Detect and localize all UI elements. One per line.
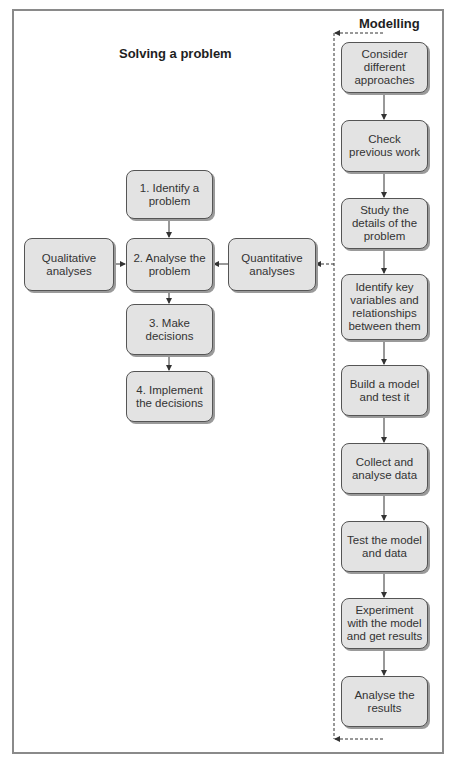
modelling-step-collect-data: Collect and analyse data [341, 443, 428, 494]
modelling-step-consider-approaches: Consider different approaches [341, 42, 428, 93]
modelling-title: Modelling [359, 16, 420, 31]
solving-a-problem-title: Solving a problem [119, 46, 232, 61]
step-analyse-problem: 2. Analyse the problem [126, 238, 213, 291]
step-implement-decisions: 4. Implement the decisions [126, 371, 213, 422]
modelling-step-study-details: Study the details of the problem [341, 198, 428, 249]
step-identify-problem: 1. Identify a problem [126, 170, 213, 219]
modelling-step-analyse-results: Analyse the results [341, 676, 428, 727]
modelling-step-experiment: Experiment with the model and get result… [341, 598, 428, 649]
modelling-step-identify-variables: Identify key variables and relationships… [341, 274, 428, 340]
modelling-step-check-previous-work: Check previous work [341, 120, 428, 172]
qualitative-analyses-box: Qualitative analyses [24, 238, 114, 291]
modelling-step-build-model: Build a model and test it [341, 365, 428, 416]
modelling-step-test-model: Test the model and data [341, 521, 428, 572]
quantitative-analyses-box: Quantitative analyses [228, 238, 316, 291]
step-make-decisions: 3. Make decisions [126, 304, 213, 355]
